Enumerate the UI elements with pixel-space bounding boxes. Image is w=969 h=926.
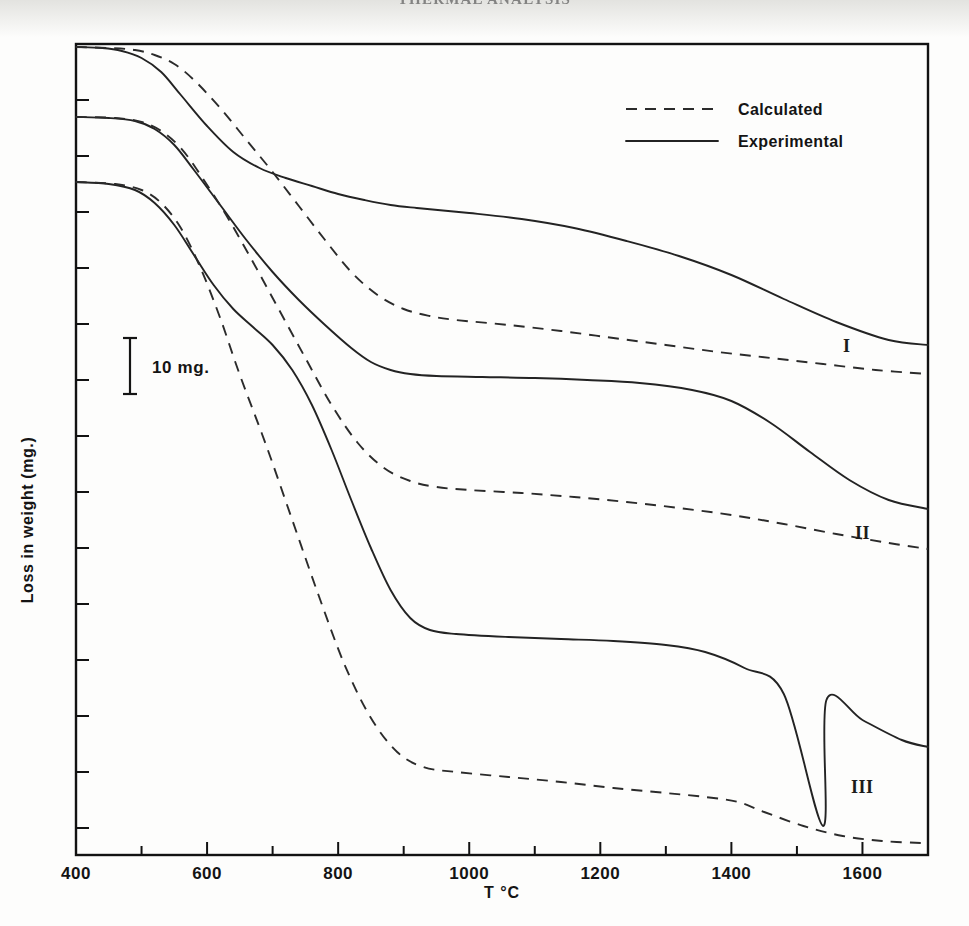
x-tick-label: 1600 — [843, 864, 883, 883]
legend: Calculated Experimental — [626, 101, 843, 150]
x-tick-label: 1400 — [711, 864, 751, 883]
x-tick-label: 400 — [61, 864, 91, 883]
x-axis-tick-labels: 4006008001000120014001600 — [61, 864, 882, 883]
legend-label-calculated: Calculated — [738, 101, 823, 118]
figure-page: THERMAL ANALYSIS 40060080010001200140016… — [0, 0, 969, 926]
y-axis-ticks — [76, 100, 89, 828]
curve-label-i: I — [843, 336, 851, 356]
scale-bar: 10 mg. — [123, 338, 209, 394]
curve-layer — [76, 47, 928, 843]
curve-iii-dashed — [76, 182, 921, 843]
curve-iii-solid — [76, 182, 928, 826]
legend-label-experimental: Experimental — [738, 133, 843, 150]
x-axis-title: T °C — [484, 884, 520, 901]
plot-frame — [76, 44, 928, 855]
x-tick-label: 800 — [323, 864, 353, 883]
curve-ii-solid — [76, 117, 928, 509]
curve-i-solid — [76, 47, 928, 345]
curve-i-dashed — [76, 47, 928, 374]
scale-bar-label: 10 mg. — [152, 358, 209, 377]
curve-label-iii: III — [851, 777, 874, 797]
x-tick-label: 600 — [192, 864, 222, 883]
y-axis-title: Loss in weight (mg.) — [19, 437, 36, 604]
x-axis-ticks — [76, 842, 862, 855]
x-tick-label: 1200 — [580, 864, 620, 883]
curve-label-ii: II — [855, 523, 870, 543]
x-tick-label: 1000 — [449, 864, 489, 883]
tga-chart: 4006008001000120014001600 T °C Loss in w… — [0, 0, 969, 926]
